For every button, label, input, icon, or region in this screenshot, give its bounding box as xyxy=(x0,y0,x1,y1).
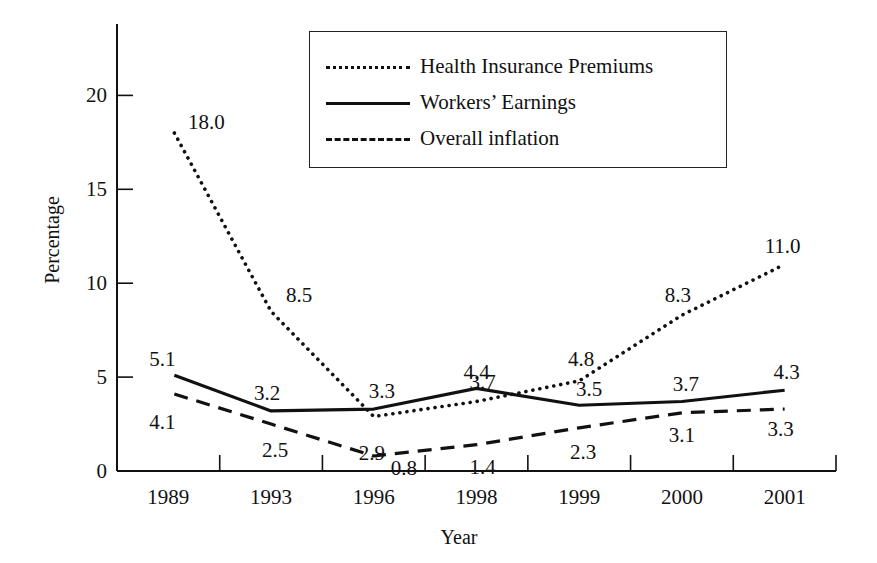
x-tick-label: 1998 xyxy=(456,485,498,509)
x-tick-label: 1996 xyxy=(353,485,395,509)
data-label: 11.0 xyxy=(765,234,801,258)
legend-label: Overall inflation xyxy=(420,126,559,151)
y-axis-title: Percentage xyxy=(41,196,64,284)
data-label: 18.0 xyxy=(188,110,225,134)
y-tick-label: 5 xyxy=(97,365,108,389)
data-label: 4.3 xyxy=(774,360,800,384)
legend-label: Workers’ Earnings xyxy=(420,90,576,115)
legend-item-earnings: Workers’ Earnings xyxy=(310,90,726,116)
data-label: 2.9 xyxy=(359,441,385,465)
y-tick-label: 15 xyxy=(86,177,107,201)
data-label: 2.3 xyxy=(570,440,596,464)
x-tick-label: 1989 xyxy=(147,485,189,509)
x-tick-label: 2000 xyxy=(661,485,703,509)
x-tick-label: 1999 xyxy=(558,485,600,509)
data-label: 0.8 xyxy=(391,456,417,480)
data-label: 4.8 xyxy=(568,347,594,371)
data-label: 3.5 xyxy=(576,377,602,401)
data-label: 2.5 xyxy=(262,438,288,462)
legend: Health Insurance Premiums Workers’ Earni… xyxy=(309,31,727,168)
dashed-line-icon xyxy=(326,138,410,141)
y-tick-label: 20 xyxy=(86,83,107,107)
x-tick-label: 1993 xyxy=(250,485,292,509)
legend-item-health: Health Insurance Premiums xyxy=(310,54,726,80)
y-tick-label: 0 xyxy=(97,459,108,483)
data-label: 3.3 xyxy=(768,417,794,441)
solid-line-icon xyxy=(326,102,410,105)
data-label: 1.4 xyxy=(469,455,496,479)
x-tick-label: 2001 xyxy=(764,485,806,509)
legend-item-inflation: Overall inflation xyxy=(310,126,726,152)
dotted-line-icon xyxy=(326,66,410,69)
data-label: 3.3 xyxy=(369,379,395,403)
data-label: 3.2 xyxy=(254,381,280,405)
data-label: 4.1 xyxy=(149,410,175,434)
data-label: 3.1 xyxy=(669,423,695,447)
data-label: 3.7 xyxy=(673,372,699,396)
data-label: 8.3 xyxy=(665,283,691,307)
data-label: 4.4 xyxy=(463,360,490,384)
data-label: 5.1 xyxy=(149,347,175,371)
data-label: 8.5 xyxy=(286,283,312,307)
x-axis-title: Year xyxy=(441,526,478,549)
y-tick-label: 10 xyxy=(86,271,107,295)
legend-label: Health Insurance Premiums xyxy=(420,54,653,79)
